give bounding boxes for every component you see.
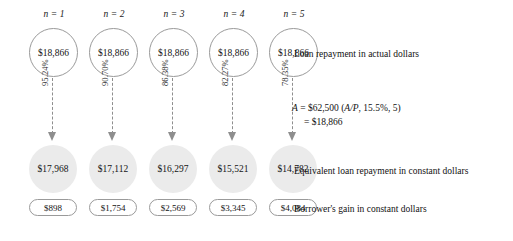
actual-payment-circle-4: $18,866 bbox=[209, 28, 258, 77]
actual-payment-circle-2: $18,866 bbox=[89, 28, 138, 77]
arrow-head-icon bbox=[168, 132, 176, 141]
borrower-gain-pill-3: $2,569 bbox=[149, 199, 197, 216]
actual-payment-circle-1: $18,866 bbox=[29, 28, 78, 77]
constant-payment-circle-2: $17,112 bbox=[89, 145, 137, 193]
borrower-gain-pill-2: $1,754 bbox=[89, 199, 137, 216]
formula-line-principal: A = $62,500 (A/P, 15.5%, 5) bbox=[292, 102, 401, 116]
constant-payment-circle-3: $16,297 bbox=[149, 145, 197, 193]
annotation-constant-dollars: Equivalent loan repayment in constant do… bbox=[294, 165, 468, 178]
deflation-arrow-2 bbox=[107, 78, 119, 144]
constant-payment-circle-1: $17,968 bbox=[29, 145, 77, 193]
deflation-percent-2: 90.70% bbox=[100, 59, 110, 86]
deflation-percent-5: 78.35% bbox=[280, 59, 290, 86]
deflation-arrow-1 bbox=[47, 78, 59, 144]
formula-line-result: = $18,866 bbox=[292, 116, 401, 130]
arrow-head-icon bbox=[108, 132, 116, 141]
period-label-5: n = 5 bbox=[259, 9, 329, 19]
deflation-percent-3: 86.38% bbox=[160, 59, 170, 86]
actual-payment-circle-3: $18,866 bbox=[149, 28, 198, 77]
annuity-formula-block: A = $62,500 (A/P, 15.5%, 5) = $18,866 bbox=[292, 102, 401, 130]
annotation-borrower-gain: Borrower's gain in constant dollars bbox=[294, 203, 427, 216]
borrower-gain-pill-4: $3,345 bbox=[209, 199, 257, 216]
deflation-arrow-4 bbox=[227, 78, 239, 144]
deflation-percent-4: 82.27% bbox=[220, 59, 230, 86]
deflation-percent-1: 95.24% bbox=[40, 59, 50, 86]
borrower-gain-pill-1: $898 bbox=[29, 199, 77, 216]
arrow-line-icon bbox=[112, 78, 113, 134]
deflation-arrow-3 bbox=[167, 78, 179, 144]
annotation-actual-dollars: Loan repayment in actual dollars bbox=[294, 48, 419, 61]
cash-flow-diagram: n = 1 n = 2 n = 3 n = 4 n = 5 $18,866 $1… bbox=[0, 0, 513, 241]
arrow-head-icon bbox=[228, 132, 236, 141]
arrow-line-icon bbox=[232, 78, 233, 134]
arrow-head-icon bbox=[48, 132, 56, 141]
arrow-line-icon bbox=[52, 78, 53, 134]
constant-payment-circle-4: $15,521 bbox=[209, 145, 257, 193]
arrow-head-icon bbox=[288, 132, 296, 141]
arrow-line-icon bbox=[172, 78, 173, 134]
